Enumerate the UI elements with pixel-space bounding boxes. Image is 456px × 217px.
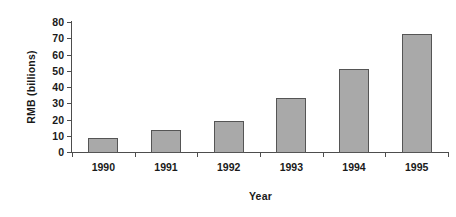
- bar-1991[interactable]: [151, 130, 181, 153]
- y-axis-tick-label: 60: [0, 50, 64, 60]
- y-axis-tick-label-text: 70: [2, 33, 64, 43]
- y-axis-tick-label: 20: [0, 115, 64, 125]
- y-axis-tick-label: 30: [0, 98, 64, 108]
- bar-slot: [323, 23, 386, 153]
- bar-slot: [135, 23, 198, 153]
- bar-slot: [385, 23, 448, 153]
- y-axis-tick-label-text: 0: [2, 147, 64, 157]
- y-axis-tick-label-text: 20: [2, 115, 64, 125]
- y-axis-tick-label-text: 50: [2, 66, 64, 76]
- bar-1994[interactable]: [339, 69, 369, 154]
- bar-1990[interactable]: [88, 138, 118, 153]
- y-axis-tick-label: 80: [0, 17, 64, 27]
- y-axis-tick-label-text: 10: [2, 131, 64, 141]
- y-axis-tick-label-text: 40: [2, 82, 64, 92]
- bar-1995[interactable]: [402, 34, 432, 153]
- y-axis-tick-label: 50: [0, 66, 64, 76]
- x-axis-label-1991: 1991: [135, 161, 198, 173]
- bar-1993[interactable]: [276, 98, 306, 153]
- bar-chart: RMB (billions) 01020304050607080 1990199…: [0, 0, 456, 217]
- bar-1992[interactable]: [214, 121, 244, 154]
- x-axis-label-1992: 1992: [197, 161, 260, 173]
- x-axis-label-1994: 1994: [323, 161, 386, 173]
- y-axis-tick-label: 40: [0, 82, 64, 92]
- bar-slot: [260, 23, 323, 153]
- y-axis-tick-label-text: 30: [2, 98, 64, 108]
- x-axis-title: Year: [72, 190, 449, 202]
- y-axis-tick-label-text: 80: [2, 17, 64, 27]
- x-axis-label-1995: 1995: [385, 161, 448, 173]
- bar-slot: [72, 23, 135, 153]
- y-axis-tick-label-text: 60: [2, 50, 64, 60]
- y-axis-tick-label: 0: [0, 147, 64, 157]
- bars-layer: [72, 22, 449, 153]
- x-axis-label-1990: 1990: [72, 161, 135, 173]
- bar-slot: [197, 23, 260, 153]
- y-axis-tick-label: 10: [0, 131, 64, 141]
- x-axis-label-1993: 1993: [260, 161, 323, 173]
- y-axis-tick-label: 70: [0, 33, 64, 43]
